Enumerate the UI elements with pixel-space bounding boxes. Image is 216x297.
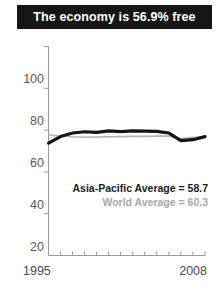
x-tick-start: 1995 (23, 265, 51, 278)
page-title: The economy is 56.9% free (33, 11, 195, 24)
economic-freedom-chart: The economy is 56.9% free (0, 0, 216, 297)
y-tick-40: 40 (8, 199, 44, 212)
legend-country-average: Asia-Pacific Average = 58.7 (40, 181, 208, 195)
y-tick-60: 60 (8, 157, 44, 170)
y-tick-80: 80 (8, 115, 44, 128)
y-tick-20: 20 (8, 241, 44, 254)
y-tick-100: 100 (8, 73, 44, 86)
y-axis-tick-labels: 100 80 60 40 20 (4, 32, 44, 272)
x-axis-tick-labels: 1995 2008 (0, 262, 216, 284)
world-average-line (49, 135, 206, 138)
x-tick-marks (49, 251, 206, 256)
legend: Asia-Pacific Average = 58.7 World Averag… (40, 181, 208, 209)
legend-world-average: World Average = 60.3 (40, 195, 208, 209)
x-tick-end: 2008 (179, 265, 207, 278)
chart-title-banner: The economy is 56.9% free (17, 5, 212, 29)
